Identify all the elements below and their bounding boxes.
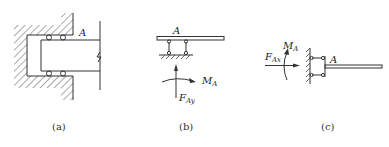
beam — [157, 37, 224, 41]
link-bottom-beam-pin — [321, 73, 324, 76]
point-label-a: A — [329, 54, 337, 65]
moment-arc — [162, 79, 193, 82]
beam — [41, 40, 100, 71]
roller-top-right — [61, 35, 66, 40]
panel-c: A MA FAx (c) — [264, 40, 382, 132]
wall-hatch — [14, 13, 73, 100]
caption-b: (b) — [179, 121, 193, 132]
point-label-a: A — [172, 25, 180, 36]
roller-bottom-right — [61, 71, 66, 76]
link-left-bottom-pin — [167, 51, 170, 54]
link-right-top-pin — [184, 40, 187, 43]
ground-hatch — [161, 55, 190, 59]
wall-hatch — [306, 48, 310, 82]
point-label-a: A — [78, 27, 86, 38]
roller-bottom-left — [47, 71, 52, 76]
panel-a: A (a) — [14, 13, 101, 132]
caption-c: (c) — [321, 121, 335, 132]
moment-arrow-head — [189, 78, 196, 83]
force-label: FAy — [178, 92, 196, 105]
figure-canvas: A (a) A MA FAy — [0, 0, 389, 147]
link-top-wall-pin — [310, 56, 313, 59]
panel-b: A MA FAy (b) — [157, 25, 224, 132]
force-arrow-head — [293, 64, 300, 68]
force-arrow-head — [174, 64, 178, 71]
caption-a: (a) — [52, 121, 66, 132]
roller-top-left — [47, 35, 52, 40]
beam — [325, 65, 382, 68]
link-top-beam-pin — [321, 56, 324, 59]
link-bottom-wall-pin — [310, 73, 313, 76]
link-left-top-pin — [167, 40, 170, 43]
force-label: FAx — [264, 51, 281, 64]
moment-label: MA — [201, 75, 217, 88]
moment-label: MA — [282, 40, 298, 53]
link-right-bottom-pin — [184, 51, 187, 54]
